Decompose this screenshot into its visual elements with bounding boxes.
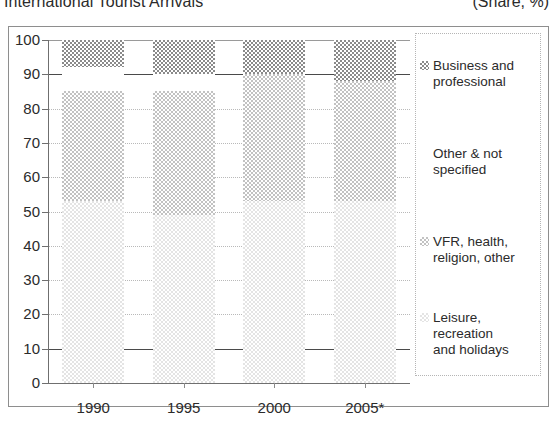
x-tick-1995 bbox=[184, 383, 185, 388]
legend-item-business[interactable]: Business andprofessional bbox=[420, 58, 540, 90]
bar-group-2000[interactable] bbox=[243, 40, 305, 383]
bar-segment-leisure[interactable] bbox=[62, 201, 124, 383]
bar-segment-vfr[interactable] bbox=[334, 81, 396, 201]
units-label: (Share, %) bbox=[473, 0, 549, 11]
legend-label: Business andprofessional bbox=[433, 58, 514, 90]
x-axis-line bbox=[48, 383, 410, 384]
legend-swatch-other-icon bbox=[420, 149, 429, 158]
legend-label: Leisure, recreationand holidays bbox=[433, 310, 540, 358]
x-axis-label-1990: 1990 bbox=[77, 399, 110, 416]
legend-swatch-vfr-icon bbox=[420, 237, 429, 246]
x-axis-label-2000: 2000 bbox=[258, 399, 291, 416]
bar-group-1995[interactable] bbox=[153, 40, 215, 383]
bar-segment-leisure[interactable] bbox=[243, 201, 305, 383]
bar-segment-other[interactable] bbox=[153, 74, 215, 91]
bar-group-2005[interactable] bbox=[334, 40, 396, 383]
legend-item-leisure[interactable]: Leisure, recreationand holidays bbox=[420, 310, 540, 358]
x-axis-label-1995: 1995 bbox=[167, 399, 200, 416]
y-axis-label-60: 60 bbox=[0, 168, 40, 185]
legend-item-other[interactable]: Other & notspecified bbox=[420, 146, 540, 178]
y-axis-label-30: 30 bbox=[0, 271, 40, 288]
y-axis-label-20: 20 bbox=[0, 305, 40, 322]
legend-label: VFR, health,religion, other bbox=[433, 234, 515, 266]
bar-segment-business[interactable] bbox=[334, 40, 396, 81]
legend-swatch-business-icon bbox=[420, 61, 429, 70]
bar-segment-vfr[interactable] bbox=[62, 91, 124, 201]
bar-segment-business[interactable] bbox=[62, 40, 124, 67]
legend-item-vfr[interactable]: VFR, health,religion, other bbox=[420, 234, 540, 266]
y-axis-label-40: 40 bbox=[0, 237, 40, 254]
y-axis-label-90: 90 bbox=[0, 65, 40, 82]
y-axis-label-80: 80 bbox=[0, 100, 40, 117]
x-tick-2000 bbox=[274, 383, 275, 388]
y-axis-label-10: 10 bbox=[0, 340, 40, 357]
page-title: International Tourist Arrivals bbox=[4, 0, 203, 11]
chart-header: International Tourist Arrivals (Share, %… bbox=[0, 0, 557, 26]
y-axis-label-0: 0 bbox=[0, 374, 40, 391]
y-axis-label-70: 70 bbox=[0, 134, 40, 151]
x-axis-label-2005: 2005* bbox=[345, 399, 384, 416]
x-tick-1990 bbox=[93, 383, 94, 388]
bar-segment-business[interactable] bbox=[153, 40, 215, 74]
legend-label: Other & notspecified bbox=[433, 146, 502, 178]
bar-segment-leisure[interactable] bbox=[334, 201, 396, 383]
plot-area bbox=[48, 40, 410, 383]
chart-legend: Business andprofessionalOther & notspeci… bbox=[415, 33, 541, 376]
bar-segment-business[interactable] bbox=[243, 40, 305, 74]
x-tick-2005 bbox=[365, 383, 366, 388]
y-axis-label-100: 100 bbox=[0, 31, 40, 48]
bar-segment-other[interactable] bbox=[62, 67, 124, 91]
legend-swatch-leisure-icon bbox=[420, 313, 429, 322]
bar-segment-vfr[interactable] bbox=[243, 74, 305, 201]
chart-page: International Tourist Arrivals (Share, %… bbox=[0, 0, 557, 438]
bar-segment-vfr[interactable] bbox=[153, 91, 215, 214]
bar-segment-leisure[interactable] bbox=[153, 215, 215, 383]
bar-group-1990[interactable] bbox=[62, 40, 124, 383]
y-axis-label-50: 50 bbox=[0, 203, 40, 220]
